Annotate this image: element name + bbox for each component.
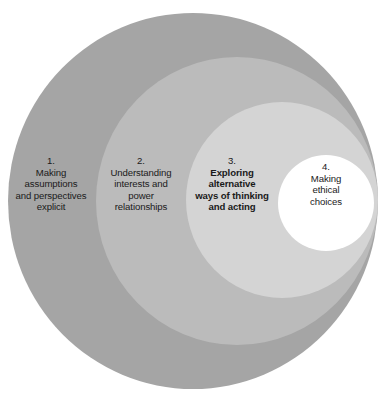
- ring-number-3: 3.: [186, 155, 278, 167]
- ring-text-4-line3: choices: [282, 196, 370, 208]
- ring-text-2: Understanding: [96, 167, 186, 179]
- ring-text-3-line4: and acting: [186, 201, 278, 213]
- ring-text-2-line2: interests and: [96, 178, 186, 190]
- ring-text-4: Making: [282, 173, 370, 185]
- ring-label-4: 4. Making ethical choices: [282, 161, 370, 207]
- ring-text-1-line3: and perspectives: [8, 190, 94, 202]
- ring-text-3: Exploring: [186, 167, 278, 179]
- ring-text-2-line3: power: [96, 190, 186, 202]
- ring-text-3-line3: ways of thinking: [186, 190, 278, 202]
- ring-label-3: 3. Exploring alternative ways of thinkin…: [186, 155, 278, 213]
- ring-text-4-line2: ethical: [282, 184, 370, 196]
- ring-text-1-line4: explicit: [8, 201, 94, 213]
- ring-text-1-line2: assumptions: [8, 178, 94, 190]
- ring-label-2: 2. Understanding interests and power rel…: [96, 155, 186, 213]
- ring-text-1: Making: [8, 167, 94, 179]
- ring-label-1: 1. Making assumptions and perspectives e…: [8, 155, 94, 213]
- ring-number-4: 4.: [282, 161, 370, 173]
- ring-number-2: 2.: [96, 155, 186, 167]
- ring-text-3-line2: alternative: [186, 178, 278, 190]
- ring-number-1: 1.: [8, 155, 94, 167]
- nested-circles-diagram: 1. Making assumptions and perspectives e…: [0, 0, 384, 402]
- ring-text-2-line4: relationships: [96, 201, 186, 213]
